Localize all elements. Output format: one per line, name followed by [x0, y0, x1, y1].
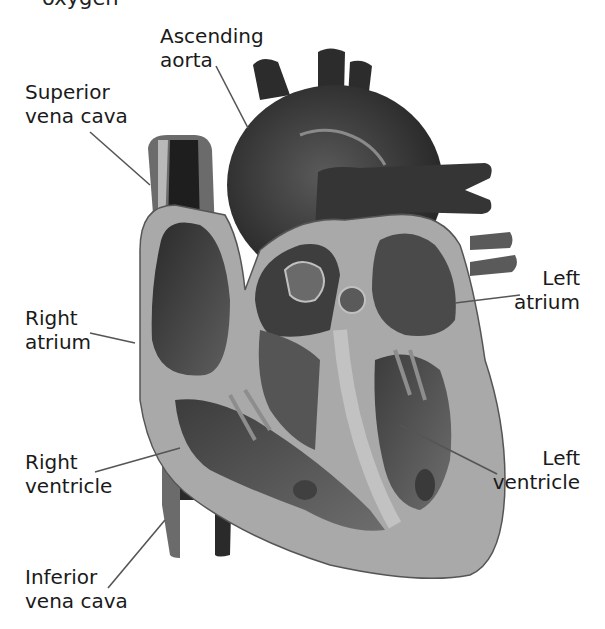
label-ascending-aorta: Ascending aorta — [160, 24, 264, 72]
leader-line-left-atrium — [455, 295, 520, 303]
label-left-atrium: Left atrium — [514, 266, 580, 314]
label-right-ventricle: Right ventricle — [25, 450, 112, 498]
label-superior-vena-cava: Superior vena cava — [25, 80, 128, 128]
label-inferior-vena-cava: Inferior vena cava — [25, 565, 128, 613]
leader-line-left-ventricle — [400, 425, 497, 474]
label-right-atrium: Right atrium — [25, 306, 91, 354]
leader-line-superior-vena-cava — [90, 132, 150, 185]
leader-line-ascending-aorta — [216, 66, 248, 128]
label-left-ventricle: Left ventricle — [493, 446, 580, 494]
leader-line-right-atrium — [90, 333, 135, 343]
